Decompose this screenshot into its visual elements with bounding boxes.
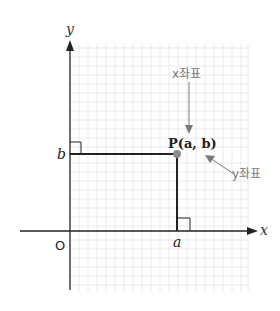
x-coordinate-arrow-icon [185, 82, 193, 134]
x-coordinate-label: x좌표 [172, 67, 201, 81]
origin-label: O [55, 238, 65, 253]
x-axis-arrow-icon [247, 227, 258, 235]
y-axis-arrow-icon [66, 40, 74, 51]
y-axis-label: y [65, 21, 75, 37]
coordinate-guide-lines [70, 154, 177, 231]
point-p-label: P(a, b) [168, 136, 217, 151]
x-axis-label: x [260, 222, 268, 238]
coordinate-diagram: y x O b a P(a, b) x좌표 y좌표 [0, 0, 280, 311]
b-label: b [57, 146, 66, 162]
y-coordinate-label: y좌표 [232, 167, 261, 181]
a-label: a [173, 234, 181, 250]
grid [70, 44, 248, 292]
y-axis [66, 40, 74, 290]
y-coordinate-arrow-icon [205, 155, 234, 174]
x-axis [20, 227, 258, 235]
point-p [173, 150, 181, 158]
